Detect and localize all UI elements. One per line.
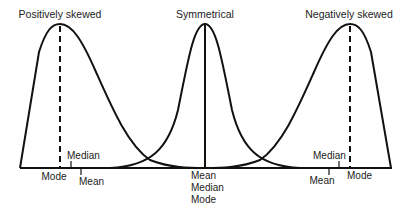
symmetrical-mode-label: Mode: [191, 194, 216, 205]
positively-skewed-curve: [20, 24, 205, 168]
positive-median-label: Median: [67, 150, 100, 161]
negatively-skewed-title: Negatively skewed: [305, 8, 393, 20]
negative-mode-label: Mode: [347, 170, 372, 181]
positive-mode-label: Mode: [41, 171, 66, 182]
symmetrical-title: Symmetrical: [176, 8, 234, 20]
negative-mean-label: Mean: [309, 175, 334, 186]
negative-median-label: Median: [313, 150, 346, 161]
negatively-skewed-curve: [205, 24, 391, 168]
symmetrical-mean-label: Mean: [191, 170, 216, 181]
skewness-diagram: Positively skewed Symmetrical Negatively…: [0, 0, 411, 209]
symmetrical-median-label: Median: [191, 182, 224, 193]
positively-skewed-title: Positively skewed: [19, 8, 102, 20]
positive-mean-label: Mean: [79, 176, 104, 187]
